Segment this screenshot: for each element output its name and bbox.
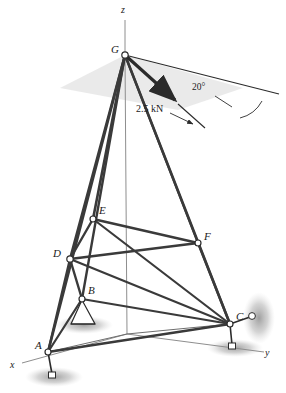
angle-arc-20: [240, 101, 262, 118]
joint-a: [45, 349, 51, 355]
axis-label-z: z: [121, 5, 125, 15]
node-label-f: F: [204, 231, 211, 242]
joint-d: [67, 256, 73, 262]
joint-c: [227, 321, 233, 327]
force-magnitude-label: 2.5 kN: [136, 104, 163, 114]
force-vector-tail-extension: [178, 104, 205, 128]
node-label-c: C: [236, 311, 243, 322]
node-label-e: E: [99, 205, 106, 216]
support-a: [48, 352, 56, 378]
joint-b: [79, 296, 85, 302]
angle-leader: [215, 96, 232, 107]
truss-drawing: [0, 0, 286, 393]
angle-label-20: 20°: [192, 83, 205, 93]
node-label-d: D: [53, 248, 61, 259]
member-d-a: [48, 259, 70, 352]
member-d-b: [70, 259, 82, 299]
joint-f: [195, 240, 201, 246]
node-label-a: A: [35, 340, 42, 351]
node-label-b: B: [88, 285, 95, 296]
axis-label-x: x: [10, 360, 14, 370]
node-label-g: G: [111, 44, 119, 55]
joint-e: [90, 216, 96, 222]
figure-canvas: z x y G E F D B A C 2.5 kN 20°: [0, 0, 286, 393]
support-c-lower: [229, 324, 236, 349]
horizontal-plane-through-G: [60, 55, 243, 110]
joint-g: [122, 52, 128, 58]
axis-label-y: y: [265, 348, 269, 358]
